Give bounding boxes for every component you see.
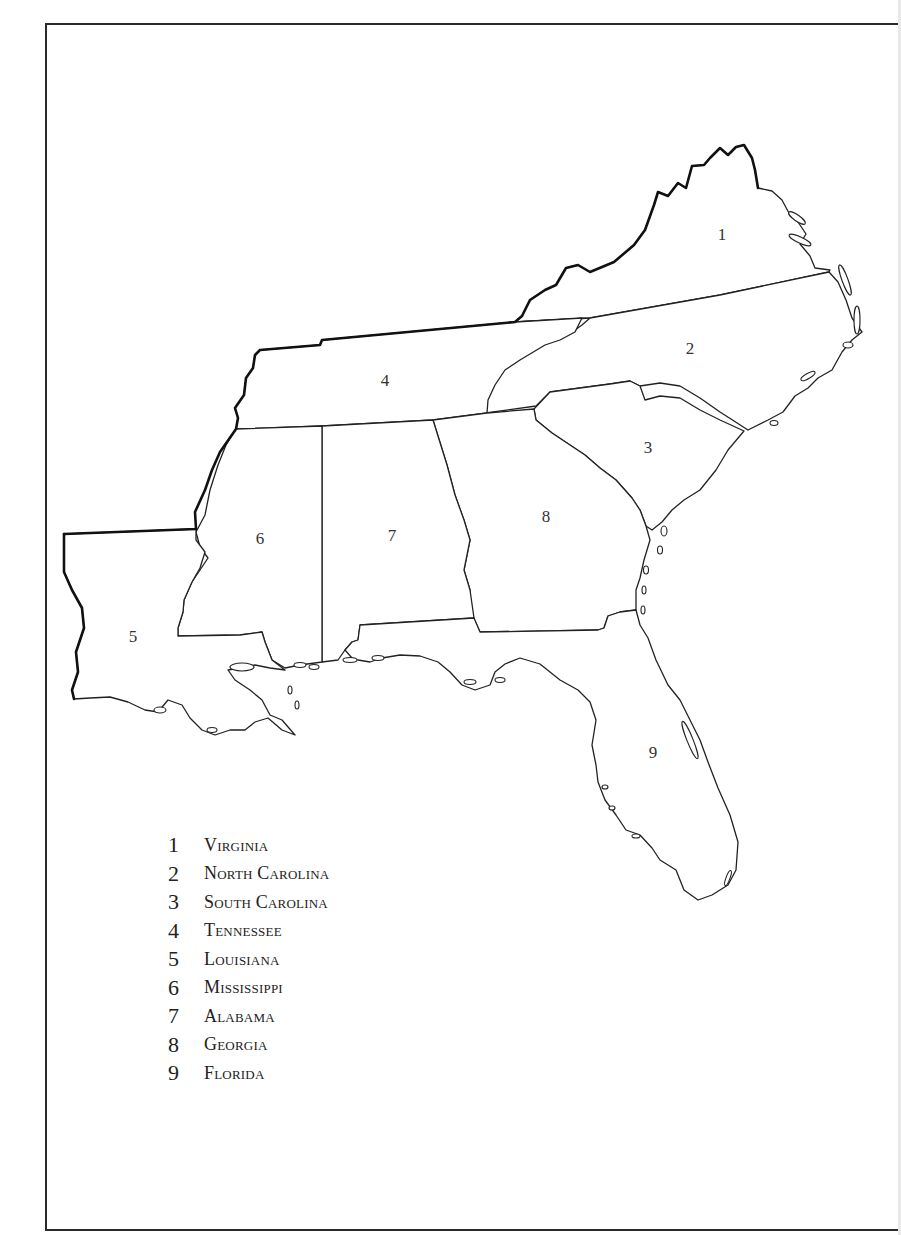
legend-number: 3 — [168, 889, 204, 915]
legend-state-name: Georgia — [204, 1034, 268, 1055]
legend-item: 9 Florida — [168, 1059, 329, 1088]
map-label-mississippi: 6 — [256, 529, 265, 549]
legend-number: 8 — [168, 1032, 204, 1058]
legend-item: 7 Alabama — [168, 1002, 329, 1031]
legend-number: 4 — [168, 918, 204, 944]
map-label-louisiana: 5 — [129, 627, 138, 647]
legend-state-name: Louisiana — [204, 949, 280, 970]
map-label-tennessee: 4 — [381, 371, 390, 391]
legend-number: 1 — [168, 832, 204, 858]
legend-state-name: Tennessee — [204, 920, 282, 941]
legend-item: 6 Mississippi — [168, 974, 329, 1003]
map-legend: 1 Virginia 2 North Carolina 3 South Caro… — [168, 831, 329, 1088]
legend-item: 1 Virginia — [168, 831, 329, 860]
legend-number: 5 — [168, 946, 204, 972]
legend-item: 2 North Carolina — [168, 860, 329, 889]
legend-number: 2 — [168, 861, 204, 887]
legend-state-name: Florida — [204, 1063, 265, 1084]
southeast-states-map — [0, 0, 901, 1235]
legend-state-name: Alabama — [204, 1006, 275, 1027]
legend-number: 6 — [168, 975, 204, 1001]
legend-item: 5 Louisiana — [168, 945, 329, 974]
legend-item: 8 Georgia — [168, 1031, 329, 1060]
legend-item: 4 Tennessee — [168, 917, 329, 946]
legend-number: 9 — [168, 1060, 204, 1086]
legend-state-name: Mississippi — [204, 977, 283, 998]
map-label-north-carolina: 2 — [686, 339, 695, 359]
map-label-virginia: 1 — [718, 225, 727, 245]
map-label-florida: 9 — [649, 743, 658, 763]
state-florida[interactable] — [345, 610, 738, 900]
legend-state-name: Virginia — [204, 835, 268, 856]
legend-item: 3 South Carolina — [168, 888, 329, 917]
map-label-alabama: 7 — [388, 526, 397, 546]
map-label-south-carolina: 3 — [644, 438, 653, 458]
map-label-georgia: 8 — [542, 507, 551, 527]
legend-state-name: South Carolina — [204, 892, 328, 913]
legend-number: 7 — [168, 1003, 204, 1029]
legend-state-name: North Carolina — [204, 863, 329, 884]
